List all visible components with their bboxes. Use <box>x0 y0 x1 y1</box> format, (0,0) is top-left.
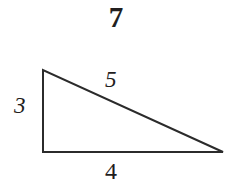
triangle-outline <box>43 70 223 152</box>
figure-container: 7 3 5 4 <box>0 0 232 186</box>
side-label-vertical-leg: 3 <box>14 94 26 117</box>
side-label-base: 4 <box>105 159 117 183</box>
side-label-hypotenuse: 5 <box>105 68 117 91</box>
